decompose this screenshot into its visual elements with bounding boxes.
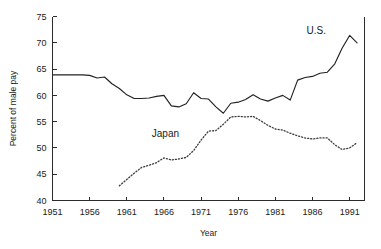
- x-tick-label: 1961: [117, 207, 137, 217]
- plot-frame: [53, 17, 365, 201]
- series-annotations: U.S.Japan: [152, 25, 326, 139]
- x-axis-title: Year: [200, 228, 217, 238]
- data-series: [53, 35, 358, 185]
- x-tick-label: 1966: [154, 207, 174, 217]
- annotation-japan: Japan: [152, 128, 179, 139]
- x-tick-label: 1971: [191, 207, 211, 217]
- series-line-japan: [119, 116, 357, 185]
- line-chart: 4045505560657075 19511956196119661971197…: [0, 0, 381, 249]
- tick-marks: [53, 17, 350, 201]
- y-tick-label: 60: [36, 91, 46, 101]
- series-line-us: [53, 35, 358, 113]
- annotation-us: U.S.: [306, 25, 325, 36]
- y-tick-label: 40: [36, 196, 46, 206]
- y-tick-label: 75: [36, 12, 46, 22]
- chart-container: 4045505560657075 19511956196119661971197…: [0, 0, 381, 249]
- y-axis-title: Percent of male pay: [8, 70, 18, 146]
- x-tick-label: 1956: [80, 207, 100, 217]
- y-tick-labels: 4045505560657075: [36, 12, 46, 206]
- x-tick-label: 1951: [42, 207, 62, 217]
- axes: [53, 17, 365, 201]
- y-tick-label: 55: [36, 117, 46, 127]
- x-tick-label: 1986: [302, 207, 322, 217]
- x-tick-label: 1991: [340, 207, 360, 217]
- y-tick-label: 50: [36, 143, 46, 153]
- x-tick-label: 1976: [228, 207, 248, 217]
- y-tick-label: 70: [36, 38, 46, 48]
- x-tick-labels: 195119561961196619711976198119861991: [42, 207, 359, 217]
- y-tick-label: 65: [36, 64, 46, 74]
- y-tick-label: 45: [36, 169, 46, 179]
- x-tick-label: 1981: [265, 207, 285, 217]
